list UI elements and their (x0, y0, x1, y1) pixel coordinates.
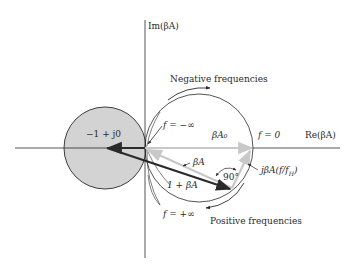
positive-frequencies-label: Positive frequencies (210, 217, 302, 226)
beta-a0-label: βA₀ (212, 131, 227, 140)
real-axis-label: Re(βA) (305, 131, 336, 140)
j-term-close: ) (294, 165, 298, 175)
fan-line-upper (147, 112, 160, 146)
f-zero-label: f = 0 (258, 131, 280, 140)
j-term-text: jβA(f/f (261, 165, 289, 175)
f-minus-inf-label: f = −∞ (163, 121, 195, 130)
j-term-label: jβA(f/fH) (261, 166, 297, 177)
right-angle-label: 90° (223, 173, 239, 182)
f-minus-inf-pointer (148, 126, 162, 144)
f-plus-inf-label: f = +∞ (163, 210, 195, 219)
nyquist-diagram (0, 0, 355, 266)
beta-a-label: βA (193, 158, 205, 167)
critical-point-label: −1 + j0 (86, 130, 121, 139)
imag-axis-label: Im(βA) (148, 22, 179, 31)
negative-frequencies-label: Negative frequencies (170, 75, 268, 84)
one-plus-beta-a-label: 1 + βA (167, 181, 198, 190)
beta-a-pointer (183, 163, 190, 166)
